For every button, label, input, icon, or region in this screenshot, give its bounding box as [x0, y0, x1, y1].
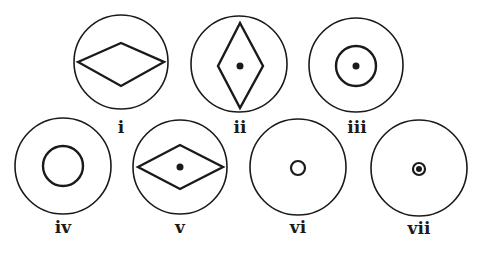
- inner-circle: [43, 146, 83, 186]
- figure-label: i: [118, 117, 125, 137]
- figure-vi: vi: [250, 119, 346, 237]
- diagram-canvas: i ii iii iv v vi vii: [0, 0, 483, 255]
- figure-label: vi: [289, 217, 307, 237]
- figure-i: i: [74, 15, 168, 137]
- figure-iv: iv: [15, 118, 111, 237]
- center-dot: [416, 166, 422, 172]
- figure-iii: iii: [309, 18, 403, 137]
- figure-label: v: [174, 217, 186, 237]
- figure-label: ii: [234, 117, 247, 137]
- center-dot: [353, 63, 360, 70]
- center-dot: [237, 63, 244, 70]
- figure-vii: vii: [371, 120, 467, 238]
- figure-label: vii: [407, 218, 431, 238]
- diamond-horizontal: [78, 43, 164, 86]
- figure-v: v: [133, 120, 227, 237]
- figure-label: iv: [55, 217, 72, 237]
- outer-circle: [74, 15, 168, 109]
- outer-circle: [15, 118, 111, 214]
- center-dot: [177, 164, 184, 171]
- outer-circle: [250, 119, 346, 215]
- figure-ii: ii: [191, 16, 287, 137]
- figure-label: iii: [347, 117, 367, 137]
- small-circle: [291, 161, 305, 175]
